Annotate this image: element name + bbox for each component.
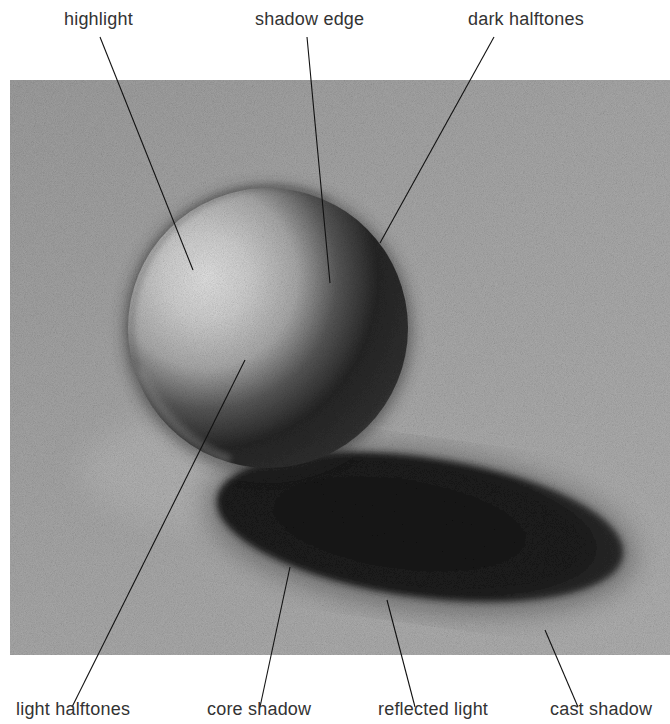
label-dark-halftones: dark halftones — [468, 9, 584, 30]
label-core-shadow: core shadow — [207, 699, 311, 720]
label-highlight: highlight — [64, 9, 133, 30]
label-light-halftones: light halftones — [16, 699, 130, 720]
label-shadow-edge: shadow edge — [255, 9, 364, 30]
label-cast-shadow: cast shadow — [550, 699, 652, 720]
label-reflected-light: reflected light — [378, 699, 488, 720]
sphere-drawing — [0, 0, 670, 724]
